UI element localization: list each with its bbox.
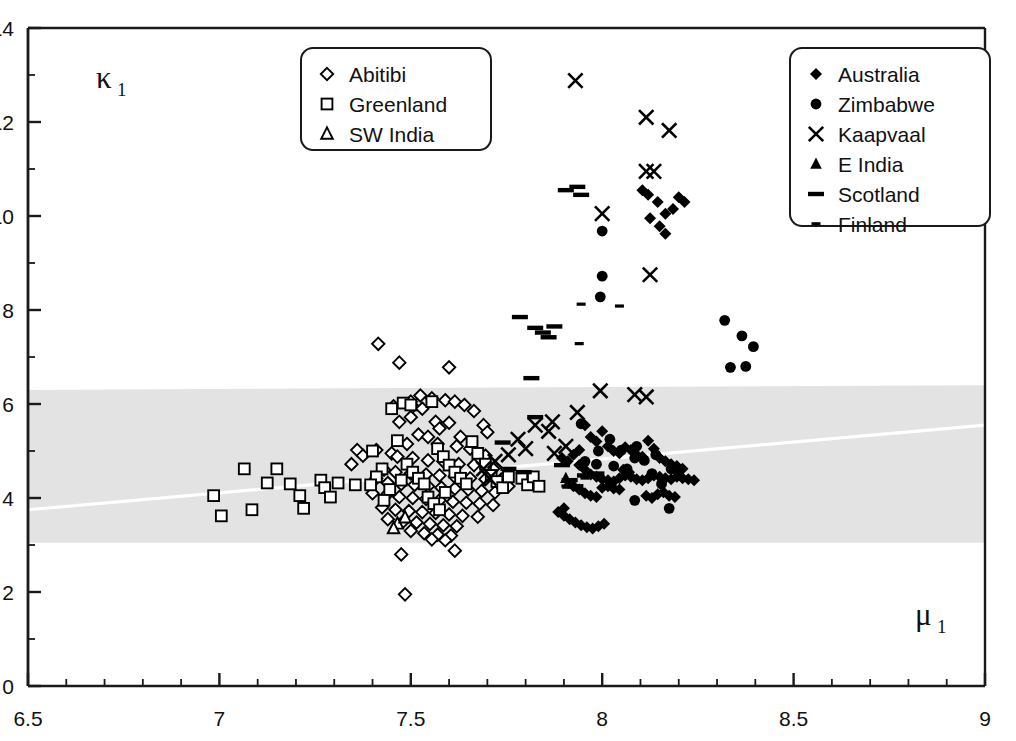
legend-item-e-india[interactable]: E India <box>838 153 904 176</box>
x-axis-label-subscript: 1 <box>937 616 947 637</box>
y-tick-label: 4 <box>2 487 14 510</box>
y-axis-label-subscript: 1 <box>117 79 127 100</box>
legend-item-abitibi[interactable]: Abitibi <box>349 63 406 86</box>
y-tick-label: 6 <box>2 393 14 416</box>
legend-marker-finland-icon <box>812 222 821 225</box>
y-tick-label: 2 <box>2 581 14 604</box>
legend-marker-scotland-icon <box>808 192 824 196</box>
legend-item-greenland[interactable]: Greenland <box>349 93 447 116</box>
band-polygon <box>28 385 985 542</box>
legend-item-finland[interactable]: Finland <box>838 213 907 236</box>
y-axis-label: κ1 <box>96 60 127 100</box>
x-tick-label: 8 <box>596 707 608 730</box>
legend-marker-greenland-icon <box>322 99 333 110</box>
legend-item-scotland[interactable]: Scotland <box>838 183 920 206</box>
legend-marker-zimbabwe-icon <box>811 99 822 110</box>
y-tick-label: 14 <box>0 17 14 40</box>
x-tick-label: 9 <box>979 707 991 730</box>
y-axis-label-text: κ <box>96 60 112 95</box>
y-axis-ticks: 02468101214 <box>0 17 41 698</box>
y-tick-label: 10 <box>0 205 14 228</box>
legend-left: AbitibiGreenlandSW India <box>301 48 491 150</box>
x-tick-label: 6.5 <box>13 707 42 730</box>
x-tick-label: 7.5 <box>396 707 425 730</box>
legend-item-zimbabwe[interactable]: Zimbabwe <box>838 93 935 116</box>
shaded-reference-band <box>28 385 985 542</box>
x-tick-label: 7 <box>214 707 226 730</box>
y-tick-label: 12 <box>0 111 14 134</box>
y-tick-label: 0 <box>2 675 14 698</box>
scatter-plot-figure: 024681012146.577.588.59κ1μ1AbitibiGreenl… <box>0 0 1016 741</box>
legend-right: AustraliaZimbabweKaapvaalE IndiaScotland… <box>790 48 990 236</box>
y-tick-label: 8 <box>2 299 14 322</box>
legend-item-kaapvaal[interactable]: Kaapvaal <box>838 123 926 146</box>
x-axis-ticks: 6.577.588.59 <box>13 673 990 730</box>
x-axis-label-text: μ <box>915 597 932 632</box>
plot-canvas: 024681012146.577.588.59κ1μ1AbitibiGreenl… <box>0 0 1016 741</box>
legend-item-sw-india[interactable]: SW India <box>349 123 435 146</box>
legend-item-australia[interactable]: Australia <box>838 63 920 86</box>
x-axis-label: μ1 <box>915 597 947 637</box>
x-tick-label: 8.5 <box>779 707 808 730</box>
